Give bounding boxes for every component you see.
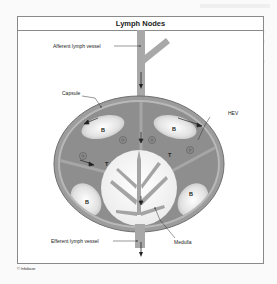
label-medulla: Medulla — [174, 239, 192, 245]
afferent-lymph-vessel — [137, 30, 170, 100]
label-b-1: B — [101, 127, 105, 133]
label-efferent: Efferent lymph vessel — [51, 238, 99, 244]
label-b-2: B — [172, 126, 176, 132]
label-hev: HEV — [228, 110, 239, 116]
label-b-3: B — [85, 199, 89, 205]
lymph-node-diagram: B B B B T T Afferent lymph vessel Capsul… — [0, 0, 277, 284]
label-b-4: B — [189, 191, 193, 197]
label-capsule: Capsule — [62, 90, 81, 96]
label-afferent: Afferent lymph vessel — [53, 43, 101, 49]
copyright: © Infobase — [17, 267, 35, 271]
